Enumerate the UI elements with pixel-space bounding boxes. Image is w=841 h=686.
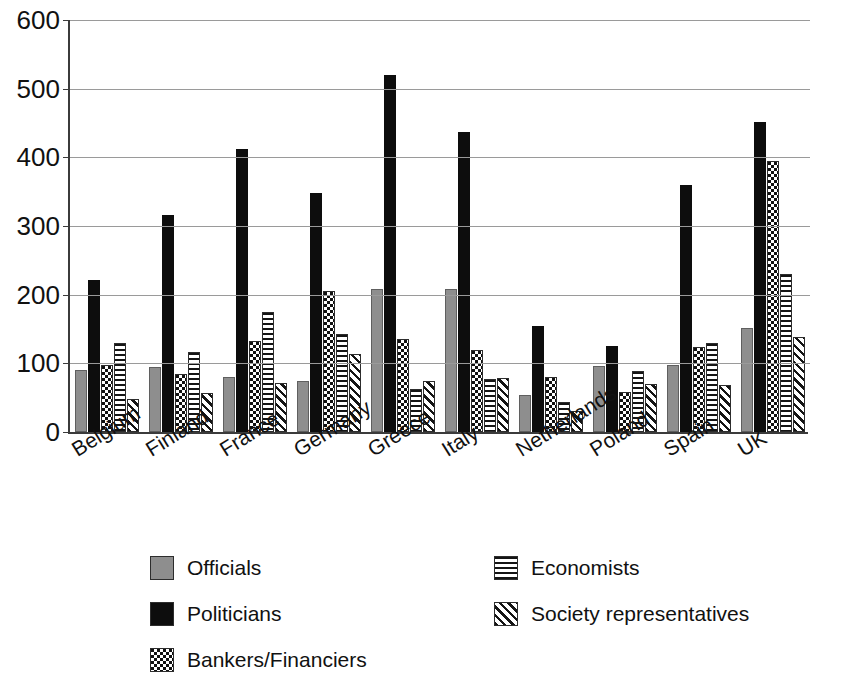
legend-label: Economists <box>531 557 640 579</box>
gridline <box>70 20 810 21</box>
x-axis-labels: BelgiumFinlandFranceGermanyGreeceItalyNe… <box>68 438 808 538</box>
bar <box>680 185 692 432</box>
x-axis-label-slot: Poland <box>586 438 660 538</box>
bar <box>384 75 396 432</box>
legend-swatch-icon <box>494 556 518 580</box>
bar <box>310 193 322 432</box>
gridline <box>70 363 810 364</box>
bar <box>793 337 805 432</box>
y-axis-tick-label: 300 <box>4 213 60 239</box>
bar <box>162 215 174 432</box>
bar <box>667 365 679 432</box>
y-axis-tick <box>63 295 70 296</box>
y-axis-tick-label: 200 <box>4 282 60 308</box>
y-axis-tick-label: 600 <box>4 7 60 33</box>
bar <box>236 149 248 432</box>
x-axis-label-slot: Netherlands <box>512 438 586 538</box>
y-axis-tick-label: 100 <box>4 350 60 376</box>
bar <box>323 291 335 432</box>
gridline <box>70 157 810 158</box>
legend-item[interactable]: Bankers/Financiers <box>150 648 367 672</box>
bar <box>297 381 309 432</box>
bar <box>75 370 87 432</box>
y-axis-tick-label: 0 <box>4 419 60 445</box>
bar <box>497 378 509 432</box>
y-axis-tick <box>63 432 70 433</box>
x-axis-label-slot: Finland <box>142 438 216 538</box>
x-axis-label-slot: Germany <box>290 438 364 538</box>
bar <box>754 122 766 432</box>
bar <box>719 385 731 432</box>
legend-label: Bankers/Financiers <box>187 649 367 671</box>
bar <box>780 274 792 432</box>
y-axis-tick-label: 500 <box>4 76 60 102</box>
bar <box>88 280 100 432</box>
x-axis-label-slot: Spain <box>660 438 734 538</box>
x-axis-label-slot: Belgium <box>68 438 142 538</box>
gridline <box>70 89 810 90</box>
gridline <box>70 226 810 227</box>
plot-area <box>68 20 808 434</box>
legend-swatch-icon <box>150 556 174 580</box>
x-axis-label-slot: UK <box>734 438 808 538</box>
legend-item[interactable]: Officials <box>150 556 261 580</box>
bar <box>532 326 544 432</box>
bar <box>149 367 161 432</box>
legend-label: Society representatives <box>531 603 749 625</box>
x-axis-label-slot: Greece <box>364 438 438 538</box>
legend-swatch-icon <box>150 648 174 672</box>
x-axis-label-slot: France <box>216 438 290 538</box>
bar <box>471 350 483 432</box>
x-axis-label-slot: Italy <box>438 438 512 538</box>
legend-item[interactable]: Society representatives <box>494 602 749 626</box>
y-axis-tick <box>63 89 70 90</box>
legend-item[interactable]: Economists <box>494 556 640 580</box>
legend-label: Politicians <box>187 603 282 625</box>
bar-chart: 0100200300400500600 BelgiumFinlandFrance… <box>0 0 841 686</box>
bar <box>519 395 531 432</box>
legend-swatch-icon <box>150 602 174 626</box>
y-axis-tick <box>63 363 70 364</box>
y-axis-labels: 0100200300400500600 <box>0 20 60 434</box>
bar <box>484 379 496 432</box>
y-axis-tick <box>63 226 70 227</box>
y-axis-tick-label: 400 <box>4 144 60 170</box>
chart-legend: OfficialsPoliticiansBankers/FinanciersEc… <box>150 556 770 676</box>
legend-swatch-icon <box>494 602 518 626</box>
y-axis-tick <box>63 20 70 21</box>
bar <box>445 289 457 432</box>
legend-label: Officials <box>187 557 261 579</box>
bar <box>223 377 235 432</box>
gridline <box>70 295 810 296</box>
bar <box>741 328 753 432</box>
legend-item[interactable]: Politicians <box>150 602 282 626</box>
bar <box>458 132 470 432</box>
y-axis-tick <box>63 157 70 158</box>
bar <box>767 161 779 432</box>
